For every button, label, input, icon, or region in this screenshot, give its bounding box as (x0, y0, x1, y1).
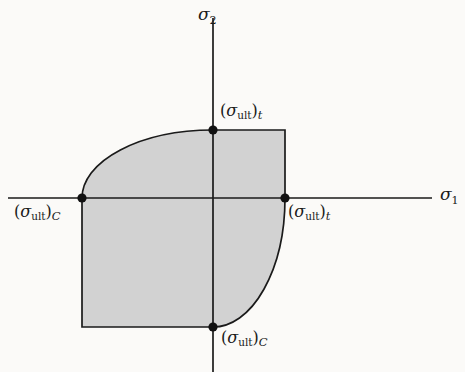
bottom-vertex-label: (σult)C (221, 330, 268, 349)
left-vertex-label: (σult)C (14, 204, 61, 223)
bottom-vertex-marker (208, 322, 217, 331)
right-vertex-label: (σult)t (288, 204, 330, 223)
sigma2-symbol: σ (198, 4, 210, 24)
ult-subscript: ult (305, 210, 319, 222)
ult-subscript: ult (238, 336, 252, 348)
top-vertex-marker (208, 125, 217, 134)
sigma1-axis-label: σ1 (440, 186, 459, 206)
compression-subscript: C (52, 209, 61, 223)
sigma1-symbol: σ (440, 184, 452, 204)
sigma-symbol: σ (20, 202, 31, 221)
tension-subscript: t (326, 209, 331, 223)
sigma2-subscript: 2 (210, 14, 217, 27)
failure-envelope-region (82, 130, 285, 327)
ult-subscript: ult (31, 210, 45, 222)
top-vertex-label: (σult)t (220, 103, 262, 122)
ult-subscript: ult (237, 109, 251, 121)
sigma1-subscript: 1 (452, 194, 459, 207)
sigma-symbol: σ (226, 101, 237, 120)
sigma-symbol: σ (294, 202, 305, 221)
failure-envelope-figure: σ2 σ1 (σult)t (σult)C (σult)t (σult)C (0, 0, 465, 372)
left-vertex-marker (77, 193, 86, 202)
sigma2-axis-label: σ2 (198, 6, 217, 26)
tension-subscript: t (258, 108, 263, 122)
figure-canvas (0, 0, 465, 372)
sigma-symbol: σ (227, 328, 238, 347)
compression-subscript: C (259, 335, 268, 349)
